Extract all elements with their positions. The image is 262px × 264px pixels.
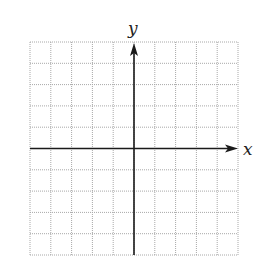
y-axis-label: y (127, 18, 138, 38)
x-axis-label: x (243, 139, 253, 159)
coordinate-plane: x y (0, 0, 262, 264)
axes (30, 43, 238, 255)
